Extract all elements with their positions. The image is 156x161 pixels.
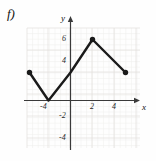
x-axis-label: x [142,103,146,112]
y-axis [68,16,73,150]
data-point-right-end [123,70,128,75]
graph-plot [0,0,156,161]
ytick-label-6: 6 [62,35,66,43]
xtick-label-2: 2 [90,103,94,111]
grid-minor [27,28,140,148]
xtick-label-minus4: -4 [40,103,47,111]
figure-container: f) [0,0,156,161]
data-point-left-end [27,70,32,75]
data-point-peak [90,37,95,42]
ytick-label-minus4: -4 [59,134,66,142]
xtick-label-4: 4 [112,103,116,111]
y-axis-label: y [61,14,65,23]
ytick-label-minus2: -2 [59,112,66,120]
ytick-label-4: 4 [62,57,66,65]
